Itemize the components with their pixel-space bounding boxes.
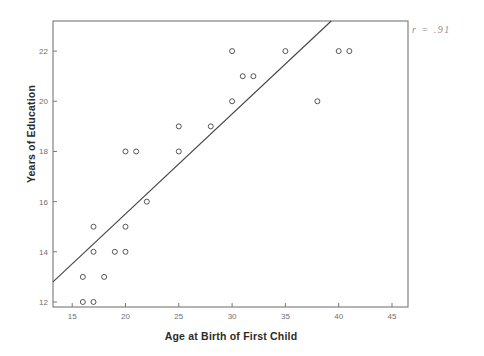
data-point — [91, 299, 96, 304]
data-point — [80, 299, 85, 304]
x-tick-label: 30 — [228, 312, 237, 321]
x-tick-label: 40 — [334, 312, 343, 321]
y-tick-label: 22 — [31, 47, 48, 56]
data-point — [240, 74, 245, 79]
data-point — [336, 49, 341, 54]
data-point — [230, 99, 235, 104]
data-point — [315, 99, 320, 104]
x-tick-label: 20 — [121, 312, 130, 321]
data-point — [176, 149, 181, 154]
x-axis-title: Age at Birth of First Child — [53, 330, 409, 342]
data-point — [102, 274, 107, 279]
data-point — [91, 249, 96, 254]
fit-line — [53, 21, 331, 282]
scatter-plot-figure: 15202530354045121416182022 Years of Educ… — [0, 0, 484, 356]
data-point — [176, 124, 181, 129]
data-point — [123, 149, 128, 154]
data-point — [123, 224, 128, 229]
data-point — [208, 124, 213, 129]
data-point — [347, 49, 352, 54]
correlation-annotation: r = .91 — [412, 24, 451, 35]
data-point — [230, 49, 235, 54]
data-point — [251, 74, 256, 79]
data-point — [112, 249, 117, 254]
data-points — [80, 49, 352, 305]
x-tick-label: 35 — [281, 312, 290, 321]
data-point — [134, 149, 139, 154]
x-tick-label: 15 — [68, 312, 77, 321]
y-tick-label: 14 — [31, 247, 48, 256]
data-point — [80, 274, 85, 279]
data-point — [144, 199, 149, 204]
axis-ticks — [53, 51, 392, 307]
regression-line — [53, 21, 331, 282]
data-point — [91, 224, 96, 229]
plot-frame — [53, 21, 408, 307]
plot-frame-box — [53, 21, 408, 307]
y-axis-title: Years of Education — [25, 59, 37, 209]
data-point — [283, 49, 288, 54]
plot-canvas — [0, 0, 484, 356]
y-tick-label: 12 — [31, 297, 48, 306]
x-tick-label: 25 — [174, 312, 183, 321]
x-tick-label: 45 — [388, 312, 397, 321]
data-point — [123, 249, 128, 254]
